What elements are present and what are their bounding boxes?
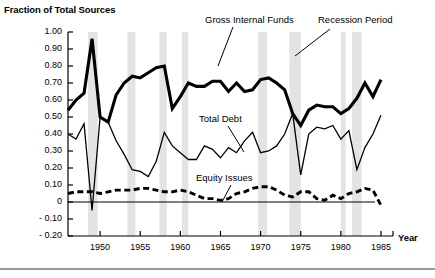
x-tick-label: 1950: [80, 242, 120, 252]
series-line-equity-issues: [68, 187, 381, 206]
recession-period-label: Recession Period: [318, 14, 392, 25]
line-chart-plot: [0, 0, 435, 278]
x-tick-label: 1985: [361, 242, 401, 252]
gross-internal-funds-label: Gross Internal Funds: [205, 14, 294, 25]
y-tick-label: 1.00: [28, 26, 62, 36]
y-tick-label: 0.60: [28, 94, 62, 104]
y-tick-label: 0.70: [28, 77, 62, 87]
recession-band-group: [88, 32, 362, 236]
recession-band: [352, 32, 362, 236]
y-tick-label: 0.30: [28, 145, 62, 155]
y-tick-label: - 0.20: [28, 230, 62, 240]
y-tick-label: 0.90: [28, 43, 62, 53]
y-tick-label: 0.40: [28, 128, 62, 138]
x-tick-label: 1955: [120, 242, 160, 252]
recession-band: [127, 32, 135, 236]
equity-issues-label: Equity Issues: [196, 172, 253, 183]
leader-line: [218, 27, 233, 66]
recession-band: [258, 32, 267, 236]
y-tick-label: 0.80: [28, 60, 62, 70]
chart-figure: Fraction of Total Sources Year 1.000.900…: [0, 0, 435, 278]
x-tick-label: 1965: [200, 242, 240, 252]
y-tick-label: 0.50: [28, 111, 62, 121]
x-tick-label: 1970: [241, 242, 281, 252]
y-tick-label: 0.20: [28, 162, 62, 172]
bottom-divider-rule: [0, 268, 435, 270]
recession-band: [182, 32, 188, 236]
x-tick-label: 1980: [321, 242, 361, 252]
y-tick-label: - 0.10: [28, 213, 62, 223]
total-debt-label: Total Debt: [199, 113, 242, 124]
x-tick-label: 1975: [281, 242, 321, 252]
data-series-group: [68, 39, 381, 211]
y-tick-label: 0.10: [28, 179, 62, 189]
y-tick-label: 0: [28, 196, 62, 206]
x-tick-label: 1960: [160, 242, 200, 252]
